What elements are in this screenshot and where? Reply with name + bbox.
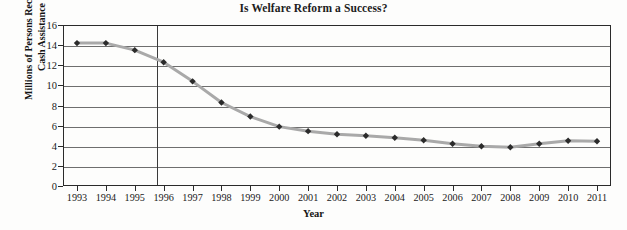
y-axis-tick-label: 10 (31, 80, 57, 91)
x-axis-tick-mark (279, 186, 280, 191)
y-axis-tick-mark (58, 85, 63, 86)
x-axis-tick-mark (77, 186, 78, 191)
y-axis-tick-label: 14 (31, 40, 57, 51)
gridline (64, 86, 610, 87)
x-axis-tick-mark (597, 186, 598, 191)
y-axis-tick-mark (58, 65, 63, 66)
x-axis-tick-mark (568, 186, 569, 191)
y-axis-tick-mark (58, 146, 63, 147)
y-axis-tick-mark (58, 45, 63, 46)
chart-figure: Is Welfare Reform a Success? Millions of… (0, 0, 627, 230)
x-axis-title: Year (0, 208, 627, 219)
x-axis-tick-mark (164, 186, 165, 191)
y-axis-tick-mark (58, 166, 63, 167)
y-axis-tick-label: 16 (31, 20, 57, 31)
x-axis-tick-mark (337, 186, 338, 191)
x-axis-tick-mark (106, 186, 107, 191)
gridline (64, 66, 610, 67)
y-axis-tick-mark (58, 186, 63, 187)
x-axis-tick-mark (221, 186, 222, 191)
gridline (64, 107, 610, 108)
x-axis-tick-mark (481, 186, 482, 191)
y-axis-tick-label: 6 (31, 120, 57, 131)
chart-title: Is Welfare Reform a Success? (0, 2, 627, 14)
y-axis-tick-mark (58, 25, 63, 26)
y-axis-tick-label: 4 (31, 140, 57, 151)
y-axis-tick-mark (58, 126, 63, 127)
gridline (64, 127, 610, 128)
y-axis-tick-label: 2 (31, 160, 57, 171)
x-axis-tick-mark (308, 186, 309, 191)
x-axis-tick-mark (395, 186, 396, 191)
gridline (64, 46, 610, 47)
x-axis-tick-mark (424, 186, 425, 191)
welfare-reform-marker (157, 26, 158, 185)
y-axis-tick-label: 12 (31, 60, 57, 71)
x-axis-tick-mark (366, 186, 367, 191)
plot-area (63, 25, 611, 186)
x-axis-tick-mark (539, 186, 540, 191)
x-axis-tick-mark (453, 186, 454, 191)
x-axis-tick-mark (510, 186, 511, 191)
y-axis-tick-label: 8 (31, 100, 57, 111)
gridline (64, 167, 610, 168)
x-axis-tick-mark (135, 186, 136, 191)
x-axis-tick-mark (250, 186, 251, 191)
y-axis-tick-mark (58, 106, 63, 107)
x-axis-tick-mark (193, 186, 194, 191)
x-axis-tick-label: 2011 (577, 192, 617, 203)
gridline (64, 147, 610, 148)
y-axis-tick-label: 0 (31, 181, 57, 192)
